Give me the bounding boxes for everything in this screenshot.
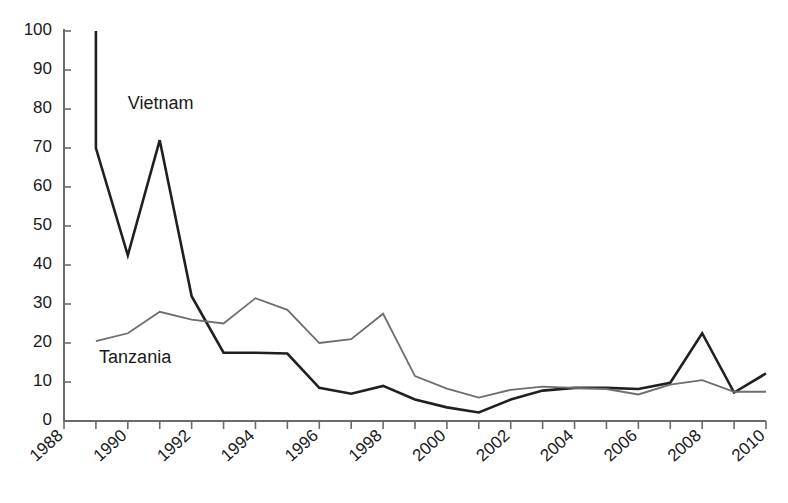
x-tick-label: 1988 — [26, 426, 67, 465]
x-axis-tick-marks — [64, 421, 766, 429]
x-tick-label: 1994 — [217, 426, 258, 465]
chart-canvas: 0102030405060708090100 19881990199219941… — [0, 0, 788, 503]
y-tick-label: 30 — [33, 293, 52, 312]
x-tick-label: 2002 — [473, 426, 514, 465]
y-tick-label: 100 — [24, 20, 52, 39]
y-tick-label: 60 — [33, 176, 52, 195]
x-tick-label: 1998 — [345, 426, 386, 465]
series-label-tanzania: Tanzania — [99, 347, 172, 367]
series-label-vietnam: Vietnam — [128, 93, 194, 113]
x-tick-label: 1990 — [90, 426, 131, 465]
line-chart: 0102030405060708090100 19881990199219941… — [0, 0, 788, 503]
data-series-group — [96, 31, 766, 412]
x-tick-label: 2004 — [536, 426, 577, 465]
y-tick-label: 50 — [33, 215, 52, 234]
x-tick-label: 1996 — [281, 426, 322, 465]
series-line-vietnam — [96, 31, 766, 412]
y-tick-label: 20 — [33, 332, 52, 351]
y-tick-label: 10 — [33, 371, 52, 390]
x-tick-label: 2006 — [600, 426, 641, 465]
x-tick-label: 2000 — [409, 426, 450, 465]
y-tick-label: 40 — [33, 254, 52, 273]
y-tick-label: 0 — [43, 410, 52, 429]
x-tick-label: 2008 — [664, 426, 705, 465]
x-axis-tick-labels: 1988199019921994199619982000200220042006… — [26, 426, 769, 465]
y-tick-label: 70 — [33, 137, 52, 156]
y-tick-label: 90 — [33, 59, 52, 78]
y-tick-label: 80 — [33, 98, 52, 117]
x-tick-label: 1992 — [153, 426, 194, 465]
x-tick-label: 2010 — [728, 426, 769, 465]
y-axis-tick-marks — [64, 31, 71, 421]
y-axis-tick-labels: 0102030405060708090100 — [24, 20, 52, 429]
